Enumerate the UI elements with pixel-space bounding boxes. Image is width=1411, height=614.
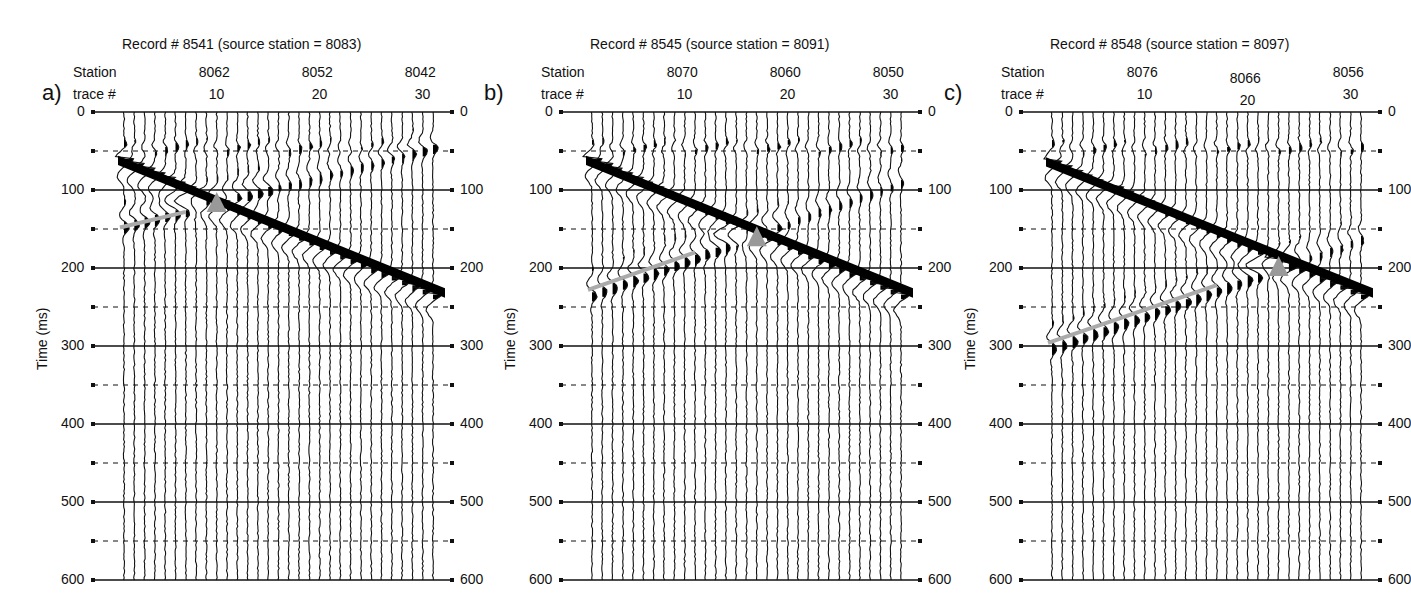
reflection-pick-line bbox=[588, 252, 695, 289]
first-arrival-band bbox=[118, 156, 445, 298]
panel-c: Record # 8548 (source station = 8097)Sta… bbox=[928, 0, 1398, 614]
first-arrival-band bbox=[1046, 157, 1373, 297]
wiggle-plot bbox=[928, 0, 1398, 614]
wiggle-plot bbox=[0, 0, 470, 614]
wiggle-plot bbox=[468, 0, 938, 614]
panel-a: Record # 8541 (source station = 8083)Sta… bbox=[0, 0, 470, 614]
panel-b: Record # 8545 (source station = 8091)Sta… bbox=[468, 0, 938, 614]
